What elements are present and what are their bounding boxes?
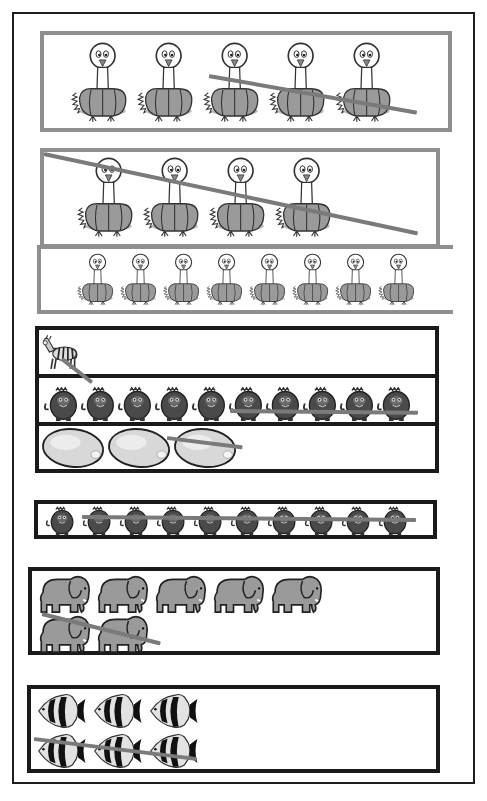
ostrich-icon xyxy=(266,37,332,129)
monkey-icon xyxy=(79,505,116,536)
monkey-icon xyxy=(153,505,190,536)
monkey-icon xyxy=(117,385,154,422)
ostrich-row xyxy=(68,37,398,129)
elephant-icon xyxy=(94,572,152,614)
elephant-icon xyxy=(36,572,94,614)
fish-icon xyxy=(35,691,91,731)
ostrich-icon xyxy=(68,37,134,129)
elephant-group xyxy=(28,567,440,655)
ostrich-icon xyxy=(134,37,200,129)
fish-icon xyxy=(35,731,91,771)
monkey-icon xyxy=(339,385,376,422)
monkey-icon xyxy=(376,385,413,422)
ostrich-row-small xyxy=(75,250,419,310)
ostrich-icon xyxy=(161,250,204,310)
ostrich-icon xyxy=(75,250,118,310)
fish-icon xyxy=(91,691,147,731)
lemon-icon xyxy=(107,426,173,470)
row-divider xyxy=(39,374,435,378)
elephant-row-1 xyxy=(36,572,326,614)
zebra-icon xyxy=(41,332,83,372)
lemon-icon xyxy=(41,426,107,470)
ostrich-icon xyxy=(118,250,161,310)
ostrich-icon xyxy=(204,250,247,310)
mixed-group xyxy=(35,326,439,473)
elephant-icon xyxy=(152,572,210,614)
fish-group xyxy=(27,685,440,773)
ostrich-icon xyxy=(290,250,333,310)
ostrich-icon xyxy=(140,152,206,244)
monkey-icon xyxy=(228,385,265,422)
monkey-icon xyxy=(43,385,80,422)
fish-row-1 xyxy=(35,691,203,731)
lemon-row xyxy=(41,426,239,470)
ostrich-icon xyxy=(272,152,338,244)
monkey-icon xyxy=(265,385,302,422)
ostrich-group-2-bottom xyxy=(37,245,453,314)
monkey-icon xyxy=(191,385,228,422)
monkey-icon xyxy=(302,385,339,422)
monkey-icon xyxy=(154,385,191,422)
ostrich-icon xyxy=(247,250,290,310)
zebra-row xyxy=(41,332,83,372)
monkey-icon xyxy=(116,505,153,536)
ostrich-icon xyxy=(332,37,398,129)
fish-icon xyxy=(147,691,203,731)
lemon-icon xyxy=(173,426,239,470)
elephant-icon xyxy=(210,572,268,614)
elephant-icon xyxy=(268,572,326,614)
monkey-icon xyxy=(80,385,117,422)
ostrich-icon xyxy=(376,250,419,310)
monkey-icon xyxy=(42,505,79,536)
ostrich-icon xyxy=(333,250,376,310)
monkey-row xyxy=(43,385,413,422)
monkey-icon xyxy=(190,505,227,536)
